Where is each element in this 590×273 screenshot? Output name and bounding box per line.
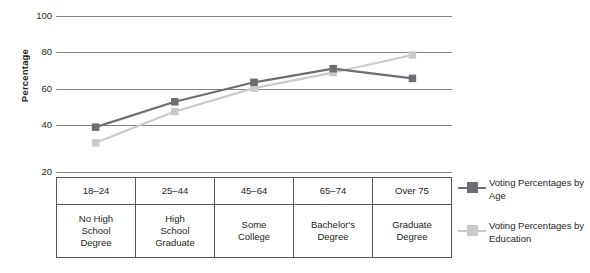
- education-cell-5: GraduateDegree: [373, 205, 452, 258]
- age-cell-3: 45–64: [215, 178, 294, 205]
- y-tick-40: 40: [0, 120, 52, 130]
- square-marker-icon: [458, 220, 486, 242]
- plot-area: [56, 0, 452, 177]
- legend-label-age: Voting Percentages by Age: [486, 176, 590, 202]
- chart-legend: Voting Percentages by Age Voting Percent…: [458, 176, 590, 262]
- series-layer: [56, 0, 452, 177]
- age-cell-5: Over 75: [373, 178, 452, 205]
- legend-entry-age: Voting Percentages by Age: [458, 176, 590, 202]
- data-point-marker: [329, 65, 337, 73]
- education-cell-4: Bachelor'sDegree: [294, 205, 373, 258]
- education-cell-1: No HighSchoolDegree: [57, 205, 136, 258]
- y-tick-100: 100: [0, 11, 52, 21]
- y-tick-20: 20: [0, 167, 52, 177]
- legend-entry-education: Voting Percentages by Education: [458, 219, 590, 245]
- education-cell-2: HighSchoolGraduate: [136, 205, 215, 258]
- y-tick-60: 60: [0, 84, 52, 94]
- y-axis-tick-labels: 100 80 60 40 20: [0, 0, 52, 273]
- series-markers-age: [92, 65, 416, 131]
- data-point-marker: [92, 139, 100, 147]
- square-marker-icon: [458, 177, 486, 199]
- age-cell-4: 65–74: [294, 178, 373, 205]
- data-point-marker: [409, 51, 417, 59]
- legend-label-education: Voting Percentages by Education: [486, 219, 590, 245]
- data-point-marker: [171, 108, 179, 116]
- age-cell-1: 18–24: [57, 178, 136, 205]
- data-point-marker: [409, 75, 417, 83]
- series-line-age: [96, 69, 413, 128]
- table-row-age-groups: 18–24 25–44 45–64 65–74 Over 75: [57, 178, 452, 205]
- series-line-education: [96, 55, 413, 143]
- y-tick-80: 80: [0, 47, 52, 57]
- table-row-education-levels: No HighSchoolDegree HighSchoolGraduate S…: [57, 205, 452, 258]
- education-cell-3: SomeCollege: [215, 205, 294, 258]
- data-point-marker: [92, 123, 100, 130]
- data-point-marker: [171, 98, 179, 106]
- data-point-marker: [250, 79, 258, 87]
- age-cell-2: 25–44: [136, 178, 215, 205]
- category-table: 18–24 25–44 45–64 65–74 Over 75 No HighS…: [56, 177, 452, 258]
- voting-percentages-line-chart: Percentage 100 80 60 40 20 18–24 25–44 4…: [0, 0, 590, 273]
